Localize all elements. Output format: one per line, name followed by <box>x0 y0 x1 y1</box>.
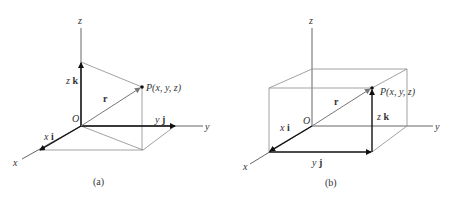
box-top-left-edge <box>269 69 312 88</box>
y-axis-label: y <box>204 121 210 132</box>
figure-canvas: z y x O P(x, y, z) r z k y j x i (a) z y… <box>0 0 450 198</box>
point-p <box>370 86 374 90</box>
xi-label: x i <box>279 122 290 133</box>
origin-label: O <box>303 115 310 126</box>
point-p-label: P(x, y, z) <box>379 86 416 98</box>
yj-label: y j <box>154 114 165 125</box>
x-axis-label: x <box>242 161 248 172</box>
yj-label: y j <box>311 157 322 168</box>
xi-vector <box>270 126 312 151</box>
base-diagonal <box>81 126 143 150</box>
z-to-p-line <box>81 62 142 87</box>
z-axis-label: z <box>308 15 313 26</box>
xi-label: x i <box>43 131 54 142</box>
panel-b: z y x O P(x, y, z) r z k y j x i (b) <box>242 15 440 189</box>
origin-label: O <box>72 113 79 124</box>
r-label: r <box>334 96 339 107</box>
zk-label: z k <box>65 75 78 86</box>
r-vector <box>81 88 140 126</box>
x-axis-label: x <box>12 157 18 168</box>
zk-label: z k <box>376 111 389 122</box>
r-vector <box>312 89 370 126</box>
box-bottom-right-edge <box>372 126 407 152</box>
base-right-edge <box>143 126 175 150</box>
point-p <box>140 85 144 89</box>
panel-a: z y x O P(x, y, z) r z k y j x i (a) <box>12 15 210 188</box>
z-axis-label: z <box>77 15 82 26</box>
r-label: r <box>103 93 108 104</box>
panel-b-caption: (b) <box>325 177 337 189</box>
y-axis-label: y <box>434 121 440 132</box>
panel-a-caption: (a) <box>93 176 104 188</box>
point-p-label: P(x, y, z) <box>145 82 182 94</box>
